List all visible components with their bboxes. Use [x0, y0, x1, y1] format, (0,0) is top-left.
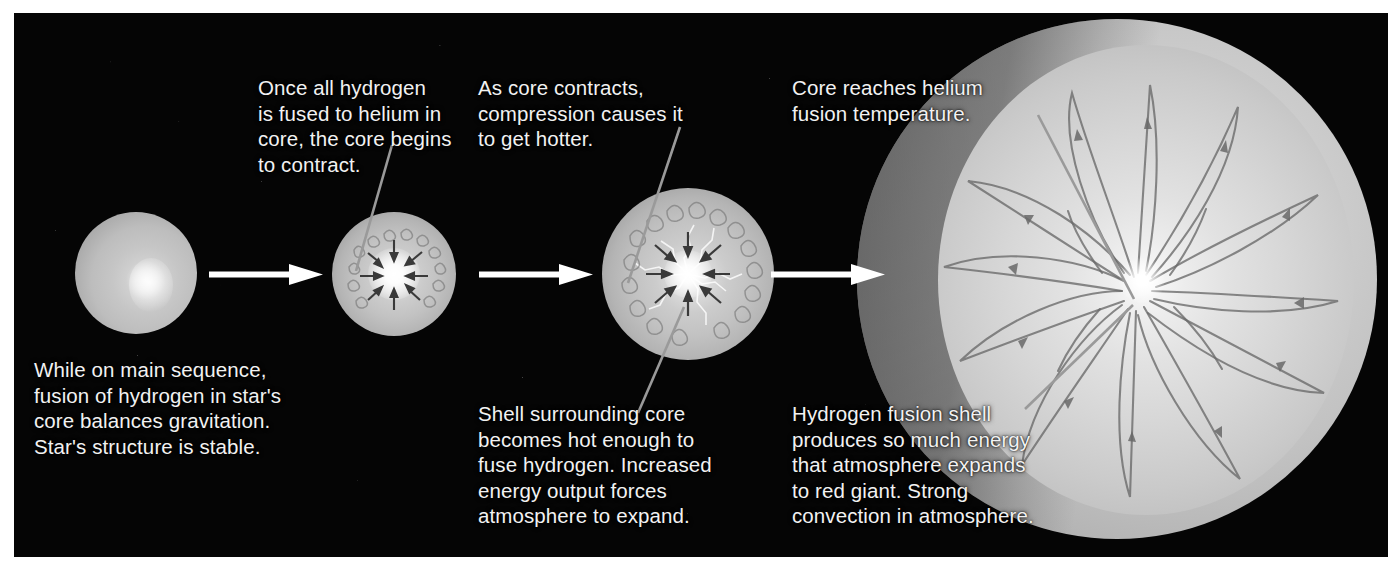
caption-stage3-bottom: Shell surrounding core becomes hot enoug…: [478, 401, 743, 529]
caption-stage3-top: As core contracts, compression causes it…: [478, 75, 708, 152]
leader-line-stage4-bottom: [1021, 303, 1141, 413]
main-sequence-star: [75, 212, 197, 334]
leader-line-stage4-top: [1034, 113, 1144, 303]
leader-line-stage3-bottom: [632, 305, 702, 415]
stage-arrow-3: [771, 258, 887, 292]
caption-stage1: While on main sequence, fusion of hydrog…: [34, 357, 294, 459]
stellar-evolution-diagram: While on main sequence, fusion of hydrog…: [0, 0, 1396, 572]
stage-arrow-2: [479, 258, 595, 292]
diagram-panel: While on main sequence, fusion of hydrog…: [14, 13, 1388, 557]
caption-stage4-top: Core reaches helium fusion temperature.: [792, 75, 1022, 126]
caption-stage2: Once all hydrogen is fused to helium in …: [258, 75, 473, 177]
stage-arrow-1: [209, 258, 325, 292]
caption-stage4-bottom: Hydrogen fusion shell produces so much e…: [792, 401, 1042, 529]
